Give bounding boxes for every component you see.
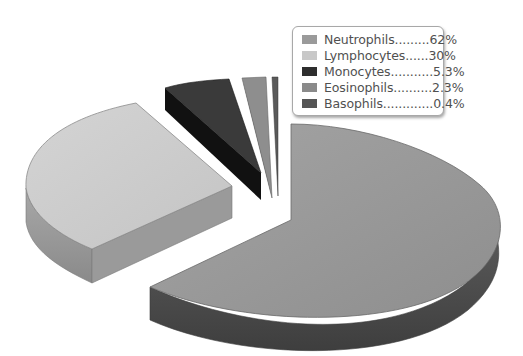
legend-item-eosinophils: Eosinophils..........2.3% [302, 80, 443, 96]
legend-item-neutrophils: Neutrophils.........62% [302, 31, 443, 47]
slice-neutrophils [150, 124, 500, 351]
legend-swatch-lymphocytes [302, 51, 317, 60]
legend-label: Neutrophils.........62% [324, 32, 457, 47]
legend-item-lymphocytes: Lymphocytes......30% [302, 47, 443, 63]
legend-label: Monocytes...........5.3% [324, 64, 464, 79]
legend-swatch-basophils [302, 99, 317, 108]
legend-label: Basophils.............0.4% [324, 96, 465, 111]
legend-swatch-neutrophils [302, 35, 317, 44]
slice-basophils [272, 77, 278, 196]
chart-legend: Neutrophils.........62% Lymphocytes.....… [292, 26, 444, 116]
slice-basophils-top [272, 77, 278, 196]
legend-item-monocytes: Monocytes...........5.3% [302, 63, 443, 79]
legend-label: Lymphocytes......30% [324, 48, 456, 63]
legend-item-basophils: Basophils.............0.4% [302, 96, 443, 112]
legend-swatch-eosinophils [302, 83, 317, 92]
legend-label: Eosinophils..........2.3% [324, 80, 463, 95]
legend-swatch-monocytes [302, 67, 317, 76]
